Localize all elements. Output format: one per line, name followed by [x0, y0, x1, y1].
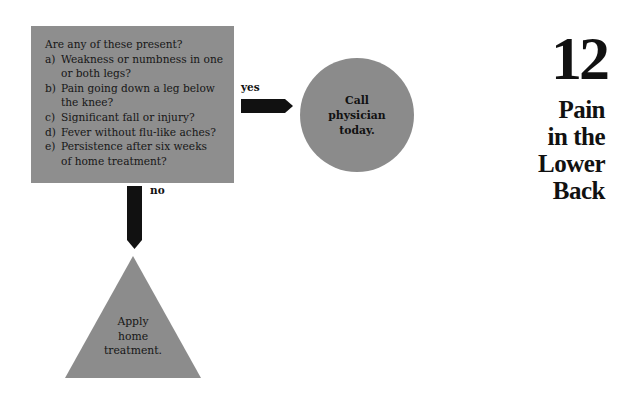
- item-letter: e): [45, 139, 61, 168]
- outcome-yes-text: Call physician today.: [328, 93, 385, 138]
- item-text: Pain going down a leg below the knee?: [61, 81, 215, 110]
- chapter-title: Pain in the Lower Back: [538, 96, 605, 204]
- yes-label: yes: [241, 81, 260, 93]
- item-text: Fever without flu-like aches?: [61, 125, 216, 140]
- item-text: Persistence after six weeks of home trea…: [61, 139, 207, 168]
- question-item-b: b) Pain going down a leg below the knee?: [45, 81, 234, 110]
- question-box: Are any of these present? a) Weakness or…: [31, 26, 234, 183]
- question-item-c: c) Significant fall or injury?: [45, 110, 234, 125]
- question-item-a: a) Weakness or numbness in one or both l…: [45, 52, 234, 81]
- item-letter: c): [45, 110, 61, 125]
- arrow-right-icon: [241, 99, 293, 113]
- item-text: Significant fall or injury?: [61, 110, 195, 125]
- item-text: Weakness or numbness in one or both legs…: [61, 52, 223, 81]
- item-letter: a): [45, 52, 61, 81]
- outcome-no-text: Apply home treatment.: [65, 315, 201, 359]
- item-letter: b): [45, 81, 61, 110]
- item-letter: d): [45, 125, 61, 140]
- question-title: Are any of these present?: [45, 37, 234, 52]
- arrow-down-icon: [127, 186, 142, 249]
- no-label: no: [150, 184, 165, 196]
- question-item-e: e) Persistence after six weeks of home t…: [45, 139, 234, 168]
- outcome-circle-call-physician: Call physician today.: [300, 58, 414, 172]
- question-item-d: d) Fever without flu-like aches?: [45, 125, 234, 140]
- chapter-number: 12: [551, 28, 607, 88]
